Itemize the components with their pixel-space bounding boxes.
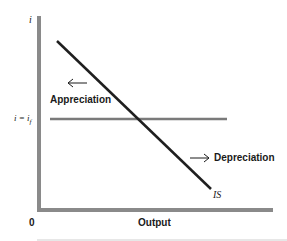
y-axis [37,16,41,212]
depreciation-label: Depreciation [214,153,275,163]
x-axis-label: Output [138,218,171,228]
is-curve [57,41,211,189]
right-arrow-icon [190,154,209,162]
left-arrow-icon [68,79,87,87]
rate-label-main: i = i [14,113,30,123]
origin-label: 0 [29,218,35,228]
x-axis [37,208,273,212]
is-curve-label: IS [213,190,221,200]
rate-label-subscript: f [30,118,32,126]
y-axis-label: i [29,15,32,25]
appreciation-label: Appreciation [50,95,111,105]
diagram-canvas [0,0,287,241]
rate-label: i = if [14,114,32,126]
